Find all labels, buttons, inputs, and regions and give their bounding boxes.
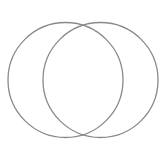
background [0,0,162,149]
rings-illustration [0,0,162,149]
